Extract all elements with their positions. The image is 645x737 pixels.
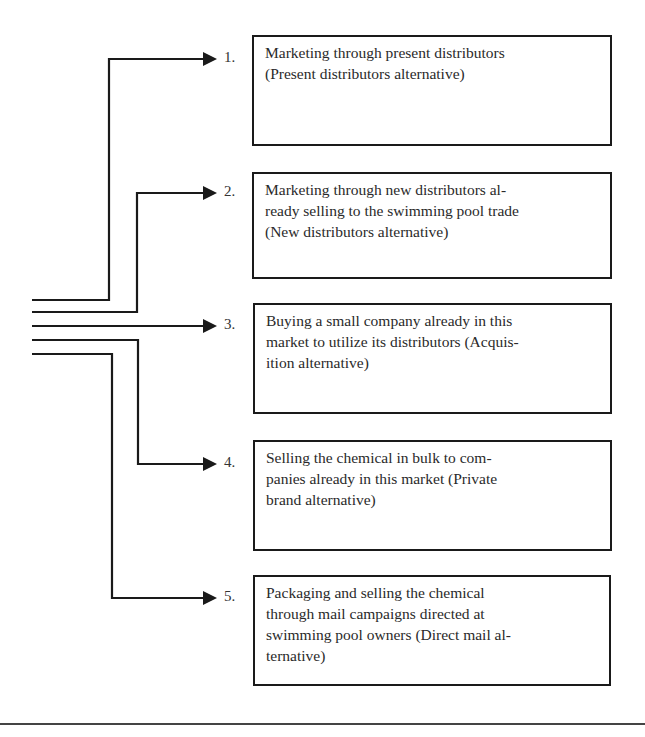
arrowhead-icon xyxy=(203,319,217,333)
box-text-line: ition alternative) xyxy=(266,352,598,373)
box-text-line: ready selling to the swimming pool trade xyxy=(265,200,598,221)
alternative-number-2: 2. xyxy=(224,183,235,200)
arrowhead-icon xyxy=(203,457,217,471)
box-text-line: through mail campaigns directed at xyxy=(266,603,597,624)
arrowhead-icon xyxy=(203,591,217,605)
alternative-box-1: Marketing through present distributors (… xyxy=(252,35,612,146)
box-text-line: panies already in this market (Private xyxy=(266,468,598,489)
arrowhead-icon xyxy=(203,52,217,66)
box-text-line: Marketing through new distributors al- xyxy=(265,179,598,200)
alternative-number-1: 1. xyxy=(224,49,235,66)
box-text-line: market to utilize its distributors (Acqu… xyxy=(266,331,598,352)
connector-1 xyxy=(32,59,205,300)
box-text-line: brand alternative) xyxy=(266,489,598,510)
arrowhead-icon xyxy=(203,186,217,200)
box-text-line: Buying a small company already in this xyxy=(266,310,598,331)
box-text-line: swimming pool owners (Direct mail al- xyxy=(266,624,597,645)
connector-5 xyxy=(32,354,205,598)
box-text-line: ternative) xyxy=(266,645,597,666)
box-text-line: Selling the chemical in bulk to com- xyxy=(266,447,598,468)
alternative-number-3: 3. xyxy=(224,316,235,333)
connector-2 xyxy=(32,193,205,312)
box-text-line: Packaging and selling the chemical xyxy=(266,582,597,603)
alternative-box-2: Marketing through new distributors al- r… xyxy=(252,172,612,279)
alternative-box-4: Selling the chemical in bulk to com- pan… xyxy=(253,440,612,551)
alternative-number-4: 4. xyxy=(224,454,235,471)
box-text-line: (Present distributors alternative) xyxy=(265,63,598,84)
connector-4 xyxy=(32,340,205,464)
bottom-divider xyxy=(0,723,645,725)
alternative-number-5: 5. xyxy=(224,588,235,605)
alternative-box-3: Buying a small company already in this m… xyxy=(253,303,612,414)
box-text-line: (New distributors alternative) xyxy=(265,221,598,242)
box-text-line: Marketing through present distributors xyxy=(265,42,598,63)
alternative-box-5: Packaging and selling the chemical throu… xyxy=(253,575,611,686)
